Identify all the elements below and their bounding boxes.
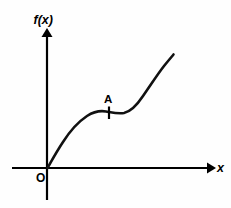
figure-background bbox=[0, 0, 231, 208]
x-axis-label: x bbox=[216, 161, 225, 175]
point-a-label: A bbox=[104, 93, 112, 105]
origin-label: O bbox=[36, 171, 45, 185]
y-axis-label: f(x) bbox=[34, 13, 53, 27]
math-figure-container: f(x) x O A bbox=[0, 0, 231, 208]
function-graph-diagram: f(x) x O A bbox=[0, 0, 231, 208]
